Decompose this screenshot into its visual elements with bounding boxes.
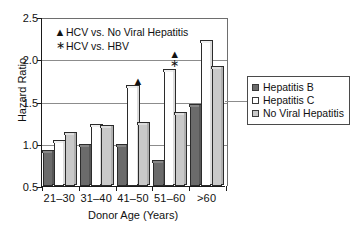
bar-group: [189, 18, 226, 186]
y-axis-tick-label: 2.0: [23, 55, 38, 66]
annotation-row: ▲ HCV vs. No Viral Hepatitis: [54, 25, 188, 39]
bar: [201, 42, 211, 186]
x-axis-tick-labels: 21‒3031‒4041‒5051‒60>60: [41, 192, 225, 206]
y-axis-tick-labels: 0.51.01.52.02.5: [12, 10, 38, 196]
bar: [91, 126, 101, 186]
x-axis-tick: [79, 186, 80, 191]
bar: [80, 146, 90, 186]
x-axis-tick: [116, 186, 117, 191]
x-axis-tick-label: 31‒40: [80, 192, 112, 204]
legend-connector-line: [225, 101, 247, 102]
x-axis-tick-label: 51‒60: [154, 192, 186, 204]
bar: [43, 152, 53, 186]
series-legend: Hepatitis BHepatitis CNo Viral Hepatitis: [247, 76, 350, 125]
x-axis-tick: [42, 186, 43, 191]
bar: [153, 162, 163, 186]
bar: [138, 124, 148, 186]
bar-side-face: [74, 132, 77, 185]
bar: [117, 146, 127, 186]
bar: [101, 127, 111, 186]
legend-item: Hepatitis C: [252, 94, 344, 107]
legend-item: Hepatitis B: [252, 81, 344, 94]
asterisk-significance-marker: ∗: [170, 58, 179, 68]
annotation-row: ∗ HCV vs. HBV: [54, 39, 188, 53]
x-axis-tick-label: >60: [197, 192, 216, 204]
bar: [164, 71, 174, 186]
bar-side-face: [184, 112, 187, 185]
y-axis-tick-label: 1.0: [23, 139, 38, 150]
y-axis-tick-label: 2.5: [23, 13, 38, 24]
triangle-significance-marker: ▲: [133, 76, 144, 86]
asterisk-marker-icon: ∗: [54, 38, 66, 52]
bar: [212, 68, 222, 186]
legend-label: Hepatitis B: [263, 81, 314, 94]
plot-right-frame: [227, 18, 228, 186]
annotation-label: HCV vs. HBV: [66, 39, 129, 53]
x-axis-tick-label: 21‒30: [44, 192, 76, 204]
bar: [190, 106, 200, 186]
y-axis-tick-label: 1.5: [23, 97, 38, 108]
bar: [175, 114, 185, 186]
x-axis-tick-label: 41‒50: [117, 192, 149, 204]
legend-label: Hepatitis C: [263, 94, 314, 107]
x-axis-title: Donor Age (Years): [41, 209, 225, 221]
legend-swatch-icon: [252, 110, 259, 117]
legend-swatch-icon: [252, 97, 259, 104]
bar: [54, 142, 64, 186]
legend-label: No Viral Hepatitis: [263, 107, 344, 120]
bar: [65, 134, 75, 186]
y-axis-tick-label: 0.5: [23, 182, 38, 193]
legend-item: No Viral Hepatitis: [252, 107, 344, 120]
plot-area: ▲▲∗ ▲ HCV vs. No Viral Hepatitis ∗ HCV v…: [41, 18, 225, 187]
x-axis-tick: [226, 186, 227, 191]
bar: [127, 87, 137, 186]
hazard-ratio-bar-chart: Hazard Ratio 0.51.01.52.02.5 ▲▲∗ ▲ HCV v…: [0, 0, 355, 232]
triangle-marker-icon: ▲: [54, 25, 66, 39]
bar-side-face: [221, 66, 224, 185]
bar-side-face: [147, 122, 150, 185]
bar-side-face: [111, 125, 114, 185]
annotation-label: HCV vs. No Viral Hepatitis: [66, 25, 188, 39]
legend-swatch-icon: [252, 84, 259, 91]
x-axis-tick: [189, 186, 190, 191]
x-axis-tick: [152, 186, 153, 191]
significance-annotation-key: ▲ HCV vs. No Viral Hepatitis ∗ HCV vs. H…: [54, 25, 188, 53]
